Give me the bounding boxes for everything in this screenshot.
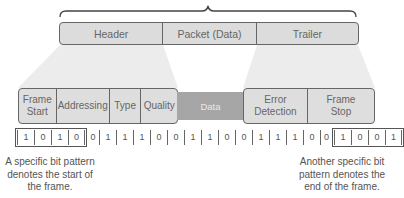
bit: 1	[99, 130, 116, 145]
bit: 0	[167, 130, 184, 145]
field-frame-stop: Frame Stop	[308, 89, 374, 123]
bit: 0	[68, 130, 85, 145]
bit: 1	[201, 130, 218, 145]
bit: 1	[133, 130, 150, 145]
frame-brace-icon	[0, 0, 397, 22]
bit: 0	[87, 130, 99, 145]
bit: 0	[303, 130, 320, 145]
header-projection	[18, 45, 178, 88]
bitstream: 1 0 1 0 0 1 1 1 0 0 1 1 0 0 1 1 1 0 0 1 …	[15, 128, 404, 147]
field-data: Data	[177, 92, 244, 120]
bit: 1	[184, 130, 201, 145]
field-error-detection: Error Detection	[244, 89, 308, 123]
bit: 1	[17, 130, 34, 145]
trailer-projection	[243, 45, 375, 88]
bit: 0	[34, 130, 51, 145]
trailer-fields-group: Error Detection Frame Stop	[243, 88, 375, 124]
bit: 1	[252, 130, 269, 145]
bit: 1	[286, 130, 303, 145]
bit: 0	[368, 130, 385, 145]
field-quality: Quality	[141, 89, 177, 123]
bit: 1	[385, 130, 402, 145]
bit: 0	[218, 130, 235, 145]
bit: 1	[269, 130, 286, 145]
field-frame-start: Frame Start	[19, 89, 57, 123]
packet-segment: Packet (Data)	[163, 23, 256, 44]
trailer-segment: Trailer	[257, 23, 358, 44]
stop-pattern-note: Another specific bit pattern denotes the…	[298, 156, 386, 194]
bit: 0	[351, 130, 368, 145]
bit: 0	[320, 130, 332, 145]
bit: 0	[150, 130, 167, 145]
header-segment: Header	[60, 23, 163, 44]
stop-bit-pattern: 1 0 0 1	[332, 128, 404, 147]
field-type: Type	[110, 89, 142, 123]
start-pattern-note: A specific bit pattern denotes the start…	[4, 156, 96, 194]
bit: 0	[235, 130, 252, 145]
start-bit-pattern: 1 0 1 0	[15, 128, 87, 147]
field-addressing: Addressing	[57, 89, 110, 123]
bit: 1	[116, 130, 133, 145]
bit: 1	[51, 130, 68, 145]
bit: 1	[334, 130, 351, 145]
header-fields-group: Frame Start Addressing Type Quality	[18, 88, 178, 124]
frame-overview-bar: Header Packet (Data) Trailer	[59, 22, 359, 45]
